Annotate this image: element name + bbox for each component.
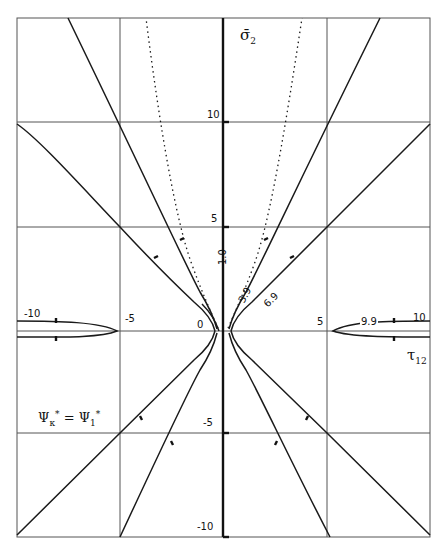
x-tick-10: 10: [413, 313, 426, 323]
y-tick-minus-10: -10: [197, 522, 213, 532]
condition-label: Ψκ* = Ψ1*: [38, 410, 100, 428]
curve-markers: [56, 238, 394, 445]
x-tick-minus-5: -5: [125, 314, 135, 324]
y-tick-10: 10: [207, 110, 220, 120]
x-tick-minus-10: -10: [24, 309, 40, 319]
x-axis-label: τ12: [407, 348, 427, 366]
curve-label-0: 0: [197, 320, 203, 330]
y-axis-label: σ̄2: [240, 28, 256, 46]
x-tick-5: 5: [317, 317, 323, 327]
y-tick-5: 5: [211, 214, 217, 224]
failure-envelope-diagram: σ̄2 τ12 10 5 -5 -10 -10 -5 5 10 0 1.0 3.…: [0, 0, 447, 550]
curve-label-1-0: 1.0: [218, 249, 228, 265]
y-tick-minus-5: -5: [203, 418, 213, 428]
curve-label-9-9: 9.9: [360, 317, 378, 327]
plot-area: [0, 0, 447, 550]
